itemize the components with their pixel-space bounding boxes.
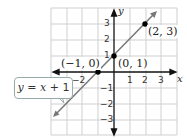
x-tick-neg2: −2 <box>72 75 85 85</box>
point-label-2-3: (2, 3) <box>147 25 179 38</box>
y-tick-neg2: −2 <box>100 99 113 109</box>
equation-callout: y = x + 1 <box>14 77 73 99</box>
x-tick-1: 1 <box>127 75 133 85</box>
x-tick-2: 2 <box>142 75 148 85</box>
y-tick-neg3: −3 <box>100 114 113 124</box>
equation-equals: = <box>24 81 40 94</box>
x-tick-3: 3 <box>158 75 164 85</box>
y-tick-neg1: −1 <box>100 83 113 93</box>
y-axis-label: y <box>118 5 124 16</box>
point-label-0-1: (0, 1) <box>117 57 149 70</box>
y-tick-1: 1 <box>104 50 110 60</box>
point-label-neg1-0: (−1, 0) <box>60 57 101 70</box>
equation-rest: + 1 <box>46 81 69 94</box>
x-axis-label: x <box>177 73 183 84</box>
y-tick-2: 2 <box>104 34 110 44</box>
y-tick-3: 3 <box>104 18 110 28</box>
